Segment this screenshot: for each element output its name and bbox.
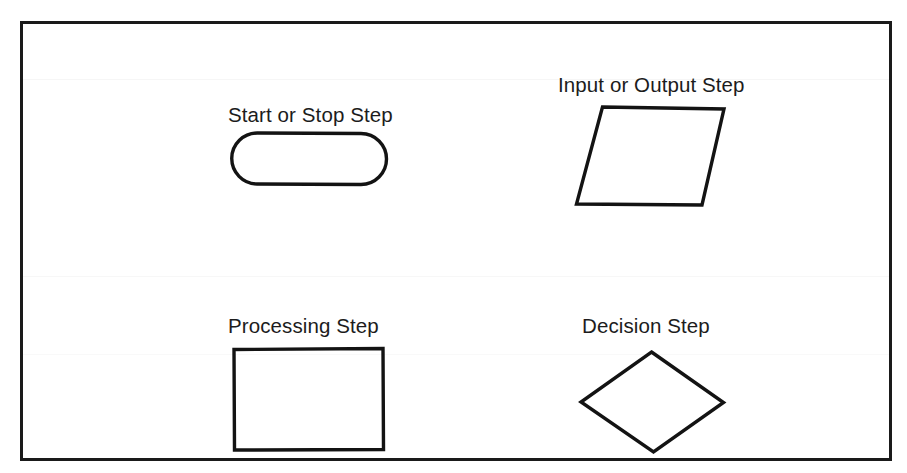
symbol-label-start-stop: Start or Stop Step	[228, 105, 393, 126]
figure-border-frame: Start or Stop Step Input or Output Step …	[20, 21, 892, 461]
scan-artifact-band	[23, 354, 889, 355]
diamond-shape-icon	[574, 346, 734, 464]
symbol-label-decision: Decision Step	[582, 316, 710, 337]
figure-canvas: Start or Stop Step Input or Output Step …	[0, 0, 907, 473]
scan-artifact-band	[23, 79, 889, 80]
symbol-label-processing: Processing Step	[228, 316, 379, 337]
rounded-pill-shape-icon	[229, 130, 391, 190]
rectangle-shape-icon	[229, 344, 389, 459]
parallelogram-shape-icon	[569, 101, 734, 216]
scan-artifact-band	[23, 276, 889, 277]
symbol-label-input-output: Input or Output Step	[558, 75, 745, 96]
